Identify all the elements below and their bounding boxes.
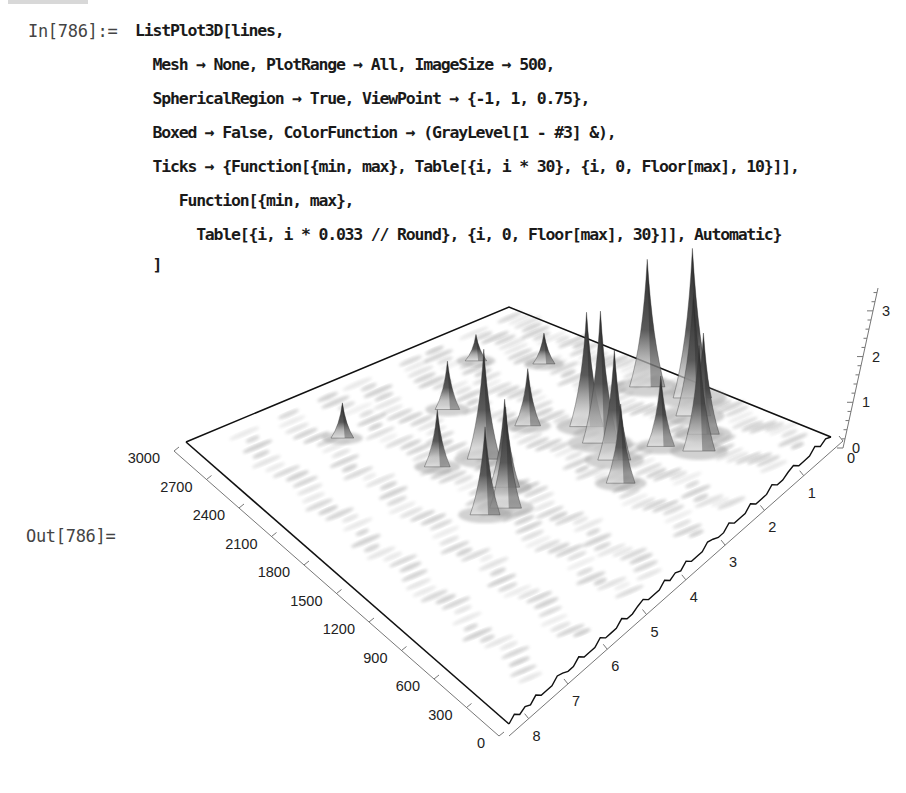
svg-text:2400: 2400 [193, 507, 225, 523]
svg-text:3: 3 [882, 303, 890, 319]
svg-text:600: 600 [396, 678, 420, 694]
svg-text:2700: 2700 [160, 479, 192, 495]
svg-text:1200: 1200 [323, 621, 355, 637]
svg-text:2: 2 [872, 349, 880, 365]
svg-text:1800: 1800 [258, 564, 290, 580]
svg-text:6: 6 [611, 658, 619, 674]
svg-text:0: 0 [852, 440, 860, 456]
svg-text:900: 900 [363, 650, 387, 666]
svg-text:3000: 3000 [128, 450, 160, 466]
svg-text:0: 0 [477, 735, 485, 751]
svg-text:3: 3 [729, 554, 737, 570]
svg-text:5: 5 [650, 624, 658, 640]
svg-text:1: 1 [862, 394, 870, 410]
svg-text:1500: 1500 [290, 593, 322, 609]
svg-text:4: 4 [690, 589, 698, 605]
svg-text:2100: 2100 [225, 536, 257, 552]
svg-text:300: 300 [428, 707, 452, 723]
surface-plot-3d[interactable]: 0300600900120015001800210024002700300001… [0, 0, 906, 793]
svg-text:8: 8 [533, 728, 541, 744]
svg-text:1: 1 [808, 485, 816, 501]
svg-text:7: 7 [572, 693, 580, 709]
svg-text:2: 2 [768, 519, 776, 535]
